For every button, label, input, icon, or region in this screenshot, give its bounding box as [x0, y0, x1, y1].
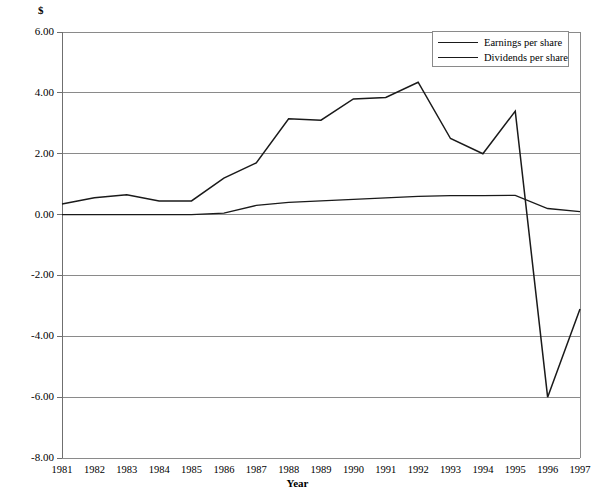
y-tick-label: 0.00 — [14, 209, 54, 220]
y-tick-label: 2.00 — [14, 148, 54, 159]
plot-area — [0, 0, 595, 499]
legend-line-swatch-dividends — [438, 57, 478, 58]
line-chart: $ 6.004.002.000.00-2.00-4.00-6.00-8.00 1… — [0, 0, 595, 499]
data-series-line-earnings — [62, 82, 580, 397]
x-tick-label: 1992 — [401, 464, 435, 475]
chart-legend: Earnings per share Dividends per share — [432, 31, 569, 67]
x-tick-label: 1986 — [207, 464, 241, 475]
y-tick-label: 6.00 — [14, 26, 54, 37]
legend-item-earnings: Earnings per share — [438, 35, 562, 50]
data-series-line-dividends — [62, 195, 580, 214]
x-tick-label: 1995 — [498, 464, 532, 475]
x-tick-label: 1994 — [466, 464, 500, 475]
legend-label-dividends: Dividends per share — [484, 52, 568, 63]
x-tick-label: 1990 — [336, 464, 370, 475]
x-tick-label: 1982 — [77, 464, 111, 475]
y-tick-label: -2.00 — [14, 269, 54, 280]
legend-line-swatch-earnings — [438, 42, 478, 43]
x-tick-label: 1997 — [563, 464, 595, 475]
x-tick-label: 1984 — [142, 464, 176, 475]
x-tick-label: 1996 — [531, 464, 565, 475]
y-axis-unit-label: $ — [38, 4, 44, 16]
y-tick-label: 4.00 — [14, 87, 54, 98]
x-tick-label: 1993 — [434, 464, 468, 475]
y-tick-label: -6.00 — [14, 391, 54, 402]
x-tick-label: 1983 — [110, 464, 144, 475]
legend-label-earnings: Earnings per share — [484, 37, 562, 48]
x-tick-label: 1987 — [239, 464, 273, 475]
y-tick-label: -4.00 — [14, 330, 54, 341]
x-tick-label: 1981 — [45, 464, 79, 475]
legend-item-dividends: Dividends per share — [438, 50, 568, 65]
x-tick-label: 1989 — [304, 464, 338, 475]
x-tick-label: 1985 — [175, 464, 209, 475]
x-tick-label: 1991 — [369, 464, 403, 475]
x-tick-label: 1988 — [272, 464, 306, 475]
y-tick-label: -8.00 — [14, 452, 54, 463]
x-axis-title: Year — [0, 477, 595, 489]
